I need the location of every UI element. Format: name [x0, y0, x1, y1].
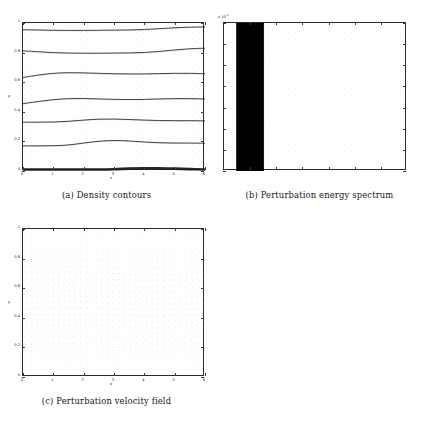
y-tick: [403, 44, 406, 45]
quiver-arrow: [85, 296, 86, 297]
quiver-arrow: [135, 327, 136, 328]
quiver-arrow: [48, 338, 49, 339]
x-tick: [53, 22, 54, 25]
quiver-arrow: [180, 297, 181, 298]
quiver-arrow: [91, 326, 92, 327]
quiver-arrow: [123, 309, 125, 310]
quiver-arrow: [42, 273, 43, 274]
plot-frame-a: [22, 22, 204, 170]
y-tick: [201, 288, 204, 289]
quiver-arrow: [141, 309, 142, 310]
quiver-arrow: [91, 314, 92, 315]
quiver-arrow-grid: [26, 232, 204, 374]
quiver-arrow: [146, 309, 147, 311]
y-tick: [403, 65, 406, 66]
x-tick: [205, 373, 206, 376]
x-tick: [381, 167, 382, 170]
quiver-arrow: [135, 350, 136, 351]
quiver-arrow: [141, 350, 142, 351]
quiver-arrow: [191, 309, 193, 310]
x-tick: [23, 167, 24, 170]
y-tick: [403, 129, 406, 130]
quiver-arrow: [186, 309, 187, 310]
quiver-arrow: [141, 273, 142, 274]
quiver-arrow: [135, 256, 136, 257]
quiver-arrow: [85, 302, 86, 303]
quiver-arrow: [53, 331, 54, 332]
quiver-arrow: [59, 301, 60, 303]
quiver-arrow: [96, 284, 97, 285]
quiver-arrow: [191, 327, 192, 328]
quiver-arrow: [191, 339, 192, 340]
quiver-arrow: [102, 332, 103, 333]
quiver-arrow: [80, 266, 81, 267]
x-tick-label: 4: [142, 173, 144, 177]
quiver-arrow: [48, 296, 49, 297]
plot-frame-b: [223, 22, 406, 170]
quiver-arrow: [53, 337, 54, 338]
caption-panel-c: (c) Perturbation velocity field: [0, 396, 213, 406]
quiver-arrow: [180, 333, 181, 334]
panel-b-energy-spectrum: x 10-4 12345600.20.40.60.811.21.4 (b) Pe…: [213, 0, 426, 212]
quiver-arrow: [147, 333, 148, 334]
quiver-arrow: [175, 303, 176, 304]
quiver-arrow: [129, 297, 130, 298]
quiver-arrow: [53, 266, 54, 267]
quiver-arrow: [124, 285, 125, 286]
quiver-arrow: [186, 339, 187, 340]
x-tick: [114, 167, 115, 170]
quiver-arrow: [37, 314, 38, 315]
quiver-arrow: [42, 344, 43, 345]
contour-line: [23, 73, 205, 78]
quiver-arrow: [175, 297, 176, 298]
x-tick: [144, 228, 145, 231]
quiver-arrow: [146, 315, 147, 317]
quiver-arrow: [42, 332, 43, 333]
quiver-arrow: [42, 302, 43, 303]
quiver-arrow: [129, 303, 130, 304]
y-axis-title-c: y: [8, 300, 10, 304]
quiver-arrow: [141, 333, 142, 334]
x-tick: [250, 22, 251, 25]
velocity-quiver-arrows: [23, 229, 205, 377]
quiver-arrow: [146, 327, 147, 328]
quiver-arrow: [175, 321, 176, 322]
quiver-arrow: [53, 272, 54, 273]
x-tick-label: 4: [142, 379, 144, 383]
quiver-arrow: [48, 302, 49, 303]
x-tick-label: 5: [173, 379, 175, 383]
quiver-arrow: [191, 333, 192, 334]
y-tick-label: 0: [10, 168, 20, 172]
quiver-arrow: [191, 297, 193, 298]
quiver-arrow: [135, 333, 136, 334]
x-tick: [84, 22, 85, 25]
quiver-arrow: [186, 291, 187, 292]
quiver-arrow: [191, 344, 192, 345]
quiver-arrow: [169, 291, 170, 293]
quiver-arrow: [135, 273, 136, 274]
quiver-arrow: [186, 262, 187, 263]
quiver-arrow: [141, 256, 142, 257]
x-tick: [144, 22, 145, 25]
quiver-arrow: [42, 350, 43, 351]
caption-panel-a: (a) Density contours: [0, 190, 213, 200]
y-tick: [22, 53, 25, 54]
quiver-arrow: [175, 267, 176, 268]
quiver-arrow: [91, 356, 92, 357]
quiver-arrow: [80, 301, 81, 303]
quiver-arrow: [124, 327, 125, 328]
quiver-arrow: [53, 290, 54, 291]
quiver-arrow: [180, 267, 181, 268]
quiver-arrow: [53, 296, 54, 297]
quiver-arrow: [129, 273, 130, 274]
quiver-arrow: [180, 291, 181, 292]
quiver-arrow: [124, 291, 126, 292]
quiver-arrow: [186, 350, 187, 351]
quiver-arrow: [124, 273, 125, 274]
quiver-arrow: [180, 262, 181, 263]
y-tick: [201, 112, 204, 113]
quiver-arrow: [48, 284, 49, 285]
x-tick: [205, 22, 206, 25]
y-tick: [22, 318, 25, 319]
quiver-arrow: [191, 285, 192, 286]
